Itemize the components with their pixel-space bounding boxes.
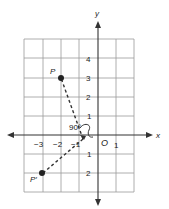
y-axis-up-arrow-icon	[95, 21, 101, 28]
x-tick-label: 1	[114, 141, 119, 150]
segment-center-to-P-prime	[43, 139, 83, 173]
y-tick-label: 2	[86, 169, 91, 178]
x-axis-label: x	[155, 131, 161, 140]
origin-label: O	[101, 138, 108, 148]
x-tick-label: −3	[34, 140, 44, 149]
x-axis-right-arrow-icon	[146, 132, 153, 138]
point-P-label: P	[50, 67, 56, 76]
point-P-prime-label: P′	[30, 175, 37, 184]
x-tick-label: −2	[53, 140, 63, 149]
y-tick-label: 1	[87, 150, 92, 159]
y-tick-label: 4	[86, 55, 91, 64]
point-P-prime	[39, 170, 45, 176]
point-P	[58, 75, 64, 81]
coordinate-plane: x y O −3 −2 −1 1 4 3 2 1 1 2 90° P P′	[0, 0, 169, 209]
y-tick-label: 3	[86, 74, 91, 83]
x-axis-left-arrow-icon	[7, 132, 14, 138]
y-axis-label: y	[94, 9, 100, 18]
y-axis-down-arrow-icon	[95, 199, 101, 206]
y-tick-label: 1	[87, 112, 92, 121]
angle-label: 90°	[69, 123, 81, 132]
grid	[24, 39, 134, 192]
y-tick-label: 2	[86, 93, 91, 102]
